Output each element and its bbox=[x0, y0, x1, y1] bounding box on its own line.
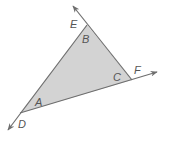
label-d: D bbox=[18, 118, 26, 130]
label-c: C bbox=[113, 71, 121, 83]
label-f: F bbox=[134, 64, 142, 76]
triangle-diagram: E B C F A D bbox=[0, 0, 172, 143]
label-a: A bbox=[34, 96, 42, 108]
label-e: E bbox=[70, 18, 78, 30]
label-b: B bbox=[82, 33, 89, 45]
